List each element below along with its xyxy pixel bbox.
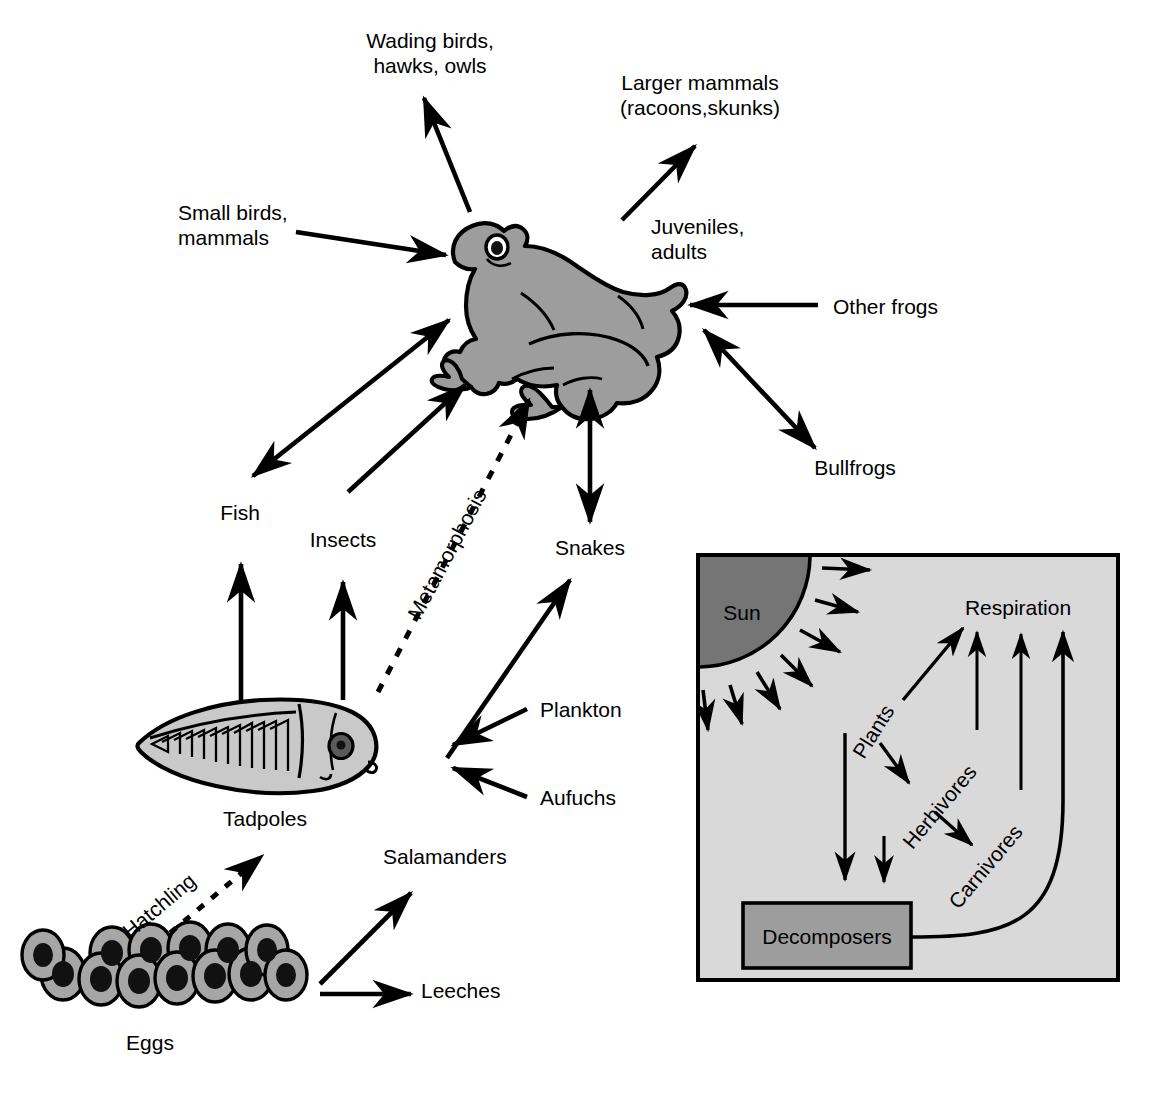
frog-illustration	[432, 223, 687, 419]
eggs-illustration	[22, 922, 307, 1007]
arrow-insects-to-frog	[348, 385, 465, 492]
label-juveniles-adults: Juveniles, adults	[651, 214, 744, 264]
label-tadpoles: Tadpoles	[223, 806, 307, 831]
label-small-birds: Small birds, mammals	[178, 200, 288, 250]
diagram-canvas: Wading birds, hawks, owls Larger mammals…	[0, 0, 1175, 1094]
arrow-tadpole-to-snakes	[447, 580, 570, 758]
arrow-eggs-to-salamanders	[320, 893, 411, 984]
label-aufuchs: Aufuchs	[540, 785, 616, 810]
arrow-frog-to-wading-birds	[424, 98, 470, 212]
arrow-frog-bullfrogs	[704, 330, 815, 448]
arrow-frog-to-larger-mammals	[622, 146, 695, 220]
arrow-frog-fish	[253, 320, 449, 476]
tadpole-illustration	[137, 700, 376, 794]
label-bullfrogs: Bullfrogs	[814, 455, 896, 480]
arrow-aufuchs-to-tadpole	[453, 768, 527, 797]
label-other-frogs: Other frogs	[833, 294, 938, 319]
label-wading-birds: Wading birds, hawks, owls	[366, 28, 494, 78]
arrow-small-birds-to-frog	[296, 232, 446, 255]
label-decomposers: Decomposers	[762, 924, 892, 949]
label-eggs: Eggs	[126, 1030, 174, 1055]
label-insects: Insects	[310, 527, 377, 552]
label-snakes: Snakes	[555, 535, 625, 560]
label-larger-mammals: Larger mammals (racoons,skunks)	[620, 70, 780, 120]
label-plankton: Plankton	[540, 697, 622, 722]
label-salamanders: Salamanders	[383, 844, 507, 869]
label-fish: Fish	[220, 500, 260, 525]
label-sun: Sun	[723, 600, 760, 625]
label-leeches: Leeches	[421, 978, 500, 1003]
label-respiration: Respiration	[965, 595, 1071, 620]
arrow-plankton-to-tadpole	[453, 709, 527, 745]
